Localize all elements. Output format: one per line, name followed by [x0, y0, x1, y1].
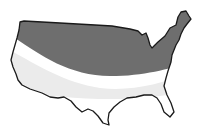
- us-map: Contiguous United States: [0, 0, 202, 135]
- us-map-svg: [0, 0, 202, 135]
